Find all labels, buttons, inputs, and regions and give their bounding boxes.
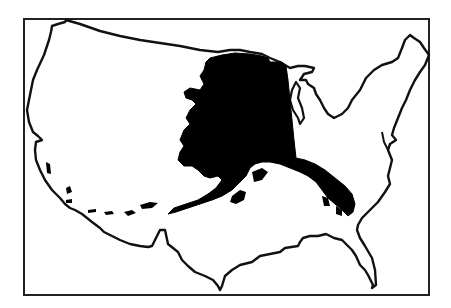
aleutian-island: [124, 210, 136, 216]
chesapeake-outline: [382, 132, 388, 150]
alaska-island: [230, 190, 246, 204]
alaska-silhouette: [168, 53, 355, 216]
aleutian-island: [66, 199, 72, 203]
aleutian-island: [88, 209, 96, 213]
map-figure: [0, 0, 451, 308]
alaska-island: [252, 168, 268, 182]
aleutian-island: [104, 211, 114, 215]
aleutian-island: [140, 202, 158, 209]
aleutian-island: [66, 186, 72, 194]
aleutian-island: [46, 162, 51, 174]
